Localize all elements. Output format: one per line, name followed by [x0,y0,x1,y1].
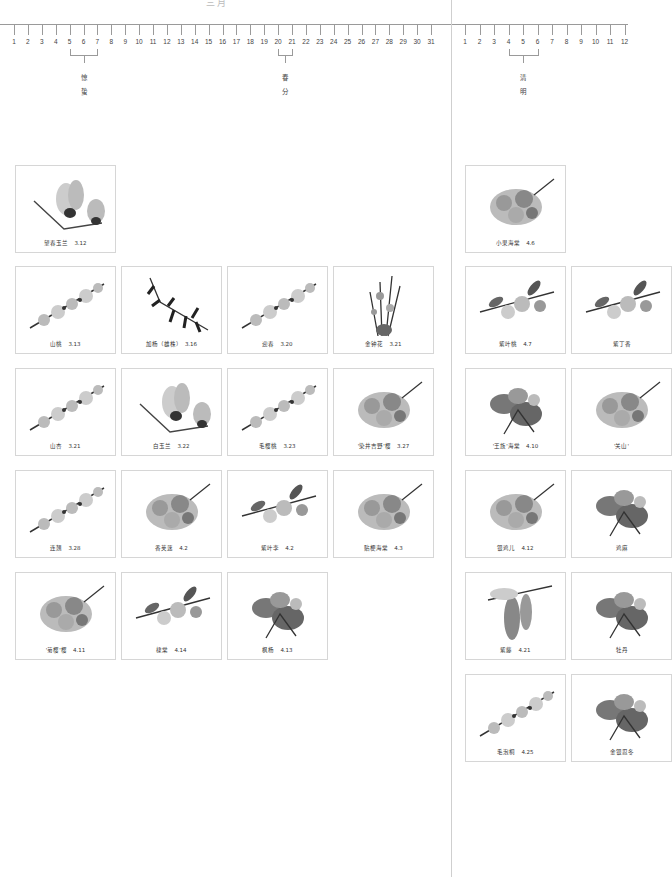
tick-mark [306,25,307,35]
tick-mark [375,25,376,35]
flower-card: '菊樱'樱 4.11 [15,572,116,660]
tick-mark [417,25,418,35]
day-number: 9 [118,38,132,45]
day-number: 12 [160,38,174,45]
day-number: 21 [285,38,299,45]
flower-card: 鸡麻 [571,470,672,558]
solar-term-stem [285,56,286,63]
day-number: 6 [531,38,545,45]
tick-mark [494,25,495,35]
timeline-axis [0,24,628,25]
day-number: 8 [560,38,574,45]
tick-mark [465,25,466,35]
flower-card-label: 加杨（雄株） 3.16 [122,340,221,348]
day-number: 15 [202,38,216,45]
tick-mark [403,25,404,35]
flower-card-label: 紫叶李 4.2 [228,544,327,552]
day-number: 17 [229,38,243,45]
tick-mark [480,25,481,35]
solar-term-label: 蛰 [78,86,90,96]
tick-mark [625,25,626,35]
tick-mark [167,25,168,35]
flower-card-label: 金钟花 3.21 [334,340,433,348]
flower-card: 棣棠 4.14 [121,572,222,660]
flower-card: 山桃 3.13 [15,266,116,354]
day-number: 19 [257,38,271,45]
flower-card: 望春玉兰 3.12 [15,165,116,253]
day-number: 18 [243,38,257,45]
solar-term-bracket [509,49,539,56]
tick-mark [250,25,251,35]
tick-mark [389,25,390,35]
flower-card-label: '染井吉野'樱 3.27 [334,442,433,450]
tick-mark [42,25,43,35]
flower-card: 加杨（雄株） 3.16 [121,266,222,354]
flower-card: 紫叶李 4.2 [227,470,328,558]
day-number: 2 [21,38,35,45]
tick-mark [538,25,539,35]
tick-mark [153,25,154,35]
flower-card: 毛泡桐 4.25 [465,674,566,762]
solar-term-stem [523,56,524,63]
top-title-partial: 三月 [206,0,228,9]
tick-mark [139,25,140,35]
flower-card-label: 山桃 3.13 [16,340,115,348]
tick-mark [84,25,85,35]
day-number: 11 [146,38,160,45]
solar-term-label: 惊 [78,72,90,82]
tick-mark [320,25,321,35]
solar-term-bracket [70,49,99,56]
day-number: 4 [49,38,63,45]
day-number: 2 [473,38,487,45]
flower-card: 牡丹 [571,572,672,660]
flower-card: 金钟花 3.21 [333,266,434,354]
day-number: 8 [104,38,118,45]
flower-card-label: 白玉兰 3.22 [122,442,221,450]
tick-mark [28,25,29,35]
flower-card-label: 紫丁香 [572,340,671,348]
tick-mark [236,25,237,35]
flower-card-label: 鸡麻 [572,544,671,552]
day-number: 26 [355,38,369,45]
tick-mark [348,25,349,35]
flower-card-label: 紫藤 4.21 [466,646,565,654]
flower-card: 迎春 3.20 [227,266,328,354]
flower-card: 紫藤 4.21 [465,572,566,660]
day-number: 6 [77,38,91,45]
flower-card-label: '王族'海棠 4.10 [466,442,565,450]
tick-mark [70,25,71,35]
flower-card: 小果海棠 4.6 [465,165,566,253]
flower-card-label: 紫叶桃 4.7 [466,340,565,348]
day-number: 14 [188,38,202,45]
tick-mark [195,25,196,35]
tick-mark [125,25,126,35]
flower-card-label: 银鸡儿 4.12 [466,544,565,552]
tick-mark [292,25,293,35]
day-number: 25 [341,38,355,45]
solar-term-label: 分 [279,86,291,96]
tick-mark [523,25,524,35]
solar-term-label: 清 [517,72,529,82]
day-number: 20 [271,38,285,45]
day-number: 30 [410,38,424,45]
flower-card: 白玉兰 3.22 [121,368,222,456]
tick-mark [552,25,553,35]
day-number: 27 [368,38,382,45]
tick-mark [581,25,582,35]
day-number: 7 [545,38,559,45]
tick-mark [97,25,98,35]
flower-card: 紫丁香 [571,266,672,354]
day-number: 24 [327,38,341,45]
tick-mark [334,25,335,35]
flower-card-label: 迎春 3.20 [228,340,327,348]
tick-mark [362,25,363,35]
day-number: 4 [502,38,516,45]
day-number: 10 [132,38,146,45]
flower-card: '王族'海棠 4.10 [465,368,566,456]
tick-mark [278,25,279,35]
flower-card: 山杏 3.21 [15,368,116,456]
flower-card-label: 金银忍冬 [572,748,671,756]
day-number: 23 [313,38,327,45]
tick-mark [509,25,510,35]
day-number: 3 [35,38,49,45]
